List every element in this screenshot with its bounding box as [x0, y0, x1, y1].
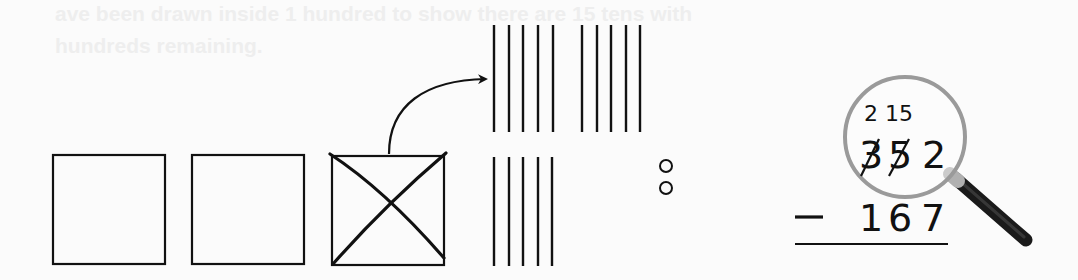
regroup-hundreds: 2	[864, 103, 878, 125]
hundred-block-3-crossed	[330, 153, 446, 265]
ones-circles	[660, 160, 672, 194]
subtrahend-tens: 6	[888, 199, 914, 237]
hundred-block-2	[192, 155, 304, 264]
minuend-hundreds: 3	[859, 136, 885, 174]
tens-top-group	[494, 25, 640, 132]
subtrahend-ones: 7	[921, 199, 947, 237]
regroup-tens: 15	[885, 103, 913, 125]
hundred-block-1	[53, 155, 165, 264]
minuend-tens: 5	[888, 136, 914, 174]
regroup-arrow	[389, 79, 486, 154]
magnifier-handle	[950, 174, 1026, 240]
tens-bottom-group	[494, 157, 552, 266]
minuend-ones: 2	[922, 136, 948, 174]
place-value-diagram	[0, 0, 1078, 280]
subtrahend-hundreds: 1	[859, 199, 885, 237]
